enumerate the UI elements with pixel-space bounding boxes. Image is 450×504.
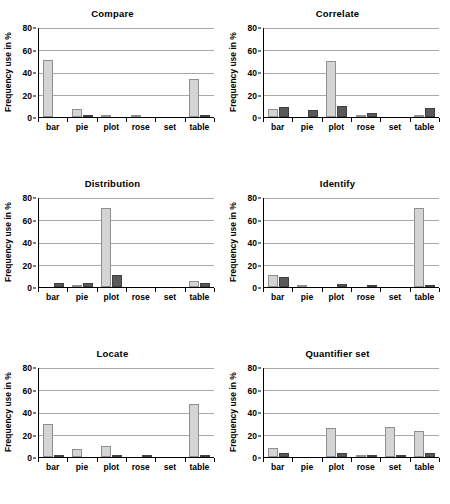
x-tick-label-pie: pie	[67, 292, 96, 302]
bar-rose-series-dark	[367, 285, 377, 287]
y-tick-label: 80	[248, 24, 257, 33]
x-tick-label-bar: bar	[38, 292, 67, 302]
bar-group-table	[410, 28, 439, 117]
y-axis-label: Frequency use in %	[2, 194, 14, 290]
bar-group-set	[381, 198, 410, 287]
bar-plot-series-light	[101, 208, 111, 287]
bar-series-container	[39, 368, 214, 457]
bar-plot-series-dark	[337, 106, 347, 117]
bar-rose-series-dark	[367, 113, 377, 117]
bar-group-plot	[97, 368, 126, 457]
chart-panel-correlate: CorrelateFrequency use in %020406080barp…	[225, 0, 450, 170]
bar-rose-series-light	[356, 115, 366, 117]
y-tick-mark	[258, 118, 261, 119]
bar-table-series-dark	[200, 455, 210, 457]
y-tick-mark	[33, 118, 36, 119]
y-tick-label: 20	[23, 91, 32, 100]
bar-group-plot	[322, 368, 351, 457]
plot-frame	[263, 28, 439, 118]
bar-group-set	[381, 368, 410, 457]
plot-area: 020406080	[38, 28, 214, 118]
y-tick-label: 0	[27, 454, 32, 463]
bar-plot-series-light	[326, 61, 336, 117]
x-tick-label-table: table	[410, 292, 439, 302]
x-tick-label-set: set	[380, 462, 409, 472]
chart-title: Quantifier set	[225, 348, 450, 359]
bar-pie-series-dark	[308, 110, 318, 117]
bar-group-set	[156, 198, 185, 287]
x-tick-label-bar: bar	[38, 122, 67, 132]
x-axis-labels: barpieplotrosesettable	[38, 462, 214, 472]
x-axis-labels: barpieplotrosesettable	[38, 292, 214, 302]
x-tick-mark	[214, 288, 215, 292]
bar-group-bar	[264, 198, 293, 287]
x-tick-mark	[214, 118, 215, 122]
x-tick-label-table: table	[185, 292, 214, 302]
bar-bar-series-dark	[279, 277, 289, 287]
bar-series-container	[39, 28, 214, 117]
bar-group-set	[156, 368, 185, 457]
y-axis-label-text: Frequency use in %	[228, 32, 238, 112]
chart-panel-distribution: DistributionFrequency use in %020406080b…	[0, 170, 225, 340]
bar-bar-series-light	[268, 275, 278, 287]
bar-group-pie	[293, 368, 322, 457]
y-tick-label: 60	[248, 216, 257, 225]
bar-group-table	[410, 198, 439, 287]
y-tick-mark	[33, 368, 36, 369]
bar-bar-series-dark	[279, 453, 289, 457]
y-tick-label: 0	[27, 114, 32, 123]
y-tick-mark	[258, 435, 261, 436]
y-tick-mark	[33, 28, 36, 29]
x-tick-label-bar: bar	[263, 462, 292, 472]
bar-pie-series-light	[72, 449, 82, 457]
bar-group-pie	[293, 198, 322, 287]
bar-group-pie	[68, 28, 97, 117]
plot-area: 020406080	[38, 368, 214, 458]
x-tick-label-bar: bar	[38, 462, 67, 472]
bar-plot-series-light	[101, 446, 111, 457]
plot-frame	[263, 198, 439, 288]
y-tick-mark	[258, 458, 261, 459]
bar-table-series-light	[189, 404, 199, 457]
y-tick-label: 40	[248, 239, 257, 248]
y-tick-label: 20	[248, 431, 257, 440]
y-tick-mark	[258, 198, 261, 199]
x-tick-label-plot: plot	[97, 462, 126, 472]
y-tick-label: 80	[248, 194, 257, 203]
x-tick-label-rose: rose	[126, 122, 155, 132]
x-tick-label-set: set	[380, 122, 409, 132]
y-tick-mark	[33, 435, 36, 436]
y-tick-mark	[33, 73, 36, 74]
y-tick-label: 60	[248, 386, 257, 395]
x-tick-label-rose: rose	[351, 462, 380, 472]
bar-table-series-light	[189, 281, 199, 287]
y-axis-label-text: Frequency use in %	[3, 202, 13, 282]
y-tick-label: 60	[23, 386, 32, 395]
bar-set-series-light	[385, 427, 395, 457]
x-tick-label-table: table	[185, 462, 214, 472]
x-tick-label-plot: plot	[322, 292, 351, 302]
plot-area: 020406080	[263, 368, 439, 458]
bar-group-rose	[127, 368, 156, 457]
y-axis-ticks: 020406080	[241, 368, 261, 458]
x-tick-mark	[439, 118, 440, 122]
y-tick-mark	[33, 95, 36, 96]
bar-table-series-dark	[425, 285, 435, 287]
y-axis-label: Frequency use in %	[2, 24, 14, 120]
x-tick-label-table: table	[410, 462, 439, 472]
bar-series-container	[264, 198, 439, 287]
x-tick-label-bar: bar	[263, 122, 292, 132]
y-tick-label: 0	[252, 454, 257, 463]
bar-group-table	[185, 28, 214, 117]
bar-plot-series-light	[101, 115, 111, 117]
y-tick-mark	[33, 265, 36, 266]
y-axis-ticks: 020406080	[241, 198, 261, 288]
x-tick-label-table: table	[185, 122, 214, 132]
y-tick-mark	[33, 288, 36, 289]
plot-area: 020406080	[38, 198, 214, 288]
plot-area: 020406080	[263, 28, 439, 118]
bar-table-series-dark	[425, 453, 435, 457]
bar-group-pie	[68, 368, 97, 457]
chart-title: Distribution	[0, 178, 225, 189]
x-tick-label-plot: plot	[322, 462, 351, 472]
